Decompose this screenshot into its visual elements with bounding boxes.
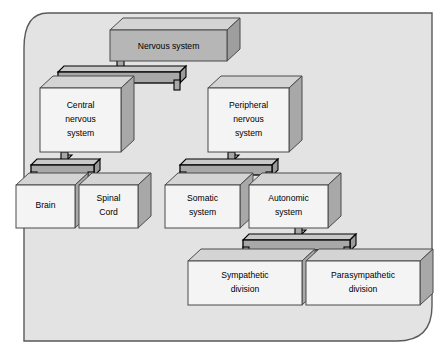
node-autonomic-system[interactable]: Autonomic system [249, 173, 341, 228]
node-sympathetic-division[interactable]: Sympathetic division [188, 249, 315, 305]
node-peripheral-nervous-system[interactable]: Peripheral nervous system [208, 76, 302, 152]
node-label-somatic-2: system [189, 207, 216, 217]
node-label-parasympathetic-2: division [349, 284, 378, 294]
node-label-nervous-system: Nervous system [138, 41, 200, 51]
node-label-sympathetic-2: division [231, 284, 260, 294]
node-label-central-1: Central [67, 100, 95, 110]
node-label-parasympathetic-1: Parasympathetic [331, 270, 396, 280]
diagram-page: Nervous system Central nervous system Pe… [0, 0, 444, 354]
node-label-peripheral-1: Peripheral [229, 100, 268, 110]
node-label-peripheral-3: system [235, 128, 262, 138]
node-label-central-2: nervous [65, 114, 96, 124]
nervous-system-diagram: Nervous system Central nervous system Pe… [0, 0, 444, 354]
node-brain[interactable]: Brain [16, 173, 88, 228]
node-label-somatic-1: Somatic [187, 193, 219, 203]
node-label-peripheral-2: nervous [233, 114, 264, 124]
node-label-central-3: system [67, 128, 94, 138]
node-parasympathetic-division[interactable]: Parasympathetic division [306, 249, 433, 305]
node-label-sympathetic-1: Sympathetic [221, 270, 269, 280]
node-label-autonomic-1: Autonomic [268, 193, 309, 203]
node-label-spinal-2: Cord [99, 207, 118, 217]
node-central-nervous-system[interactable]: Central nervous system [40, 76, 134, 152]
node-spinal-cord[interactable]: Spinal Cord [79, 173, 151, 228]
node-somatic-system[interactable]: Somatic system [165, 173, 253, 228]
node-nervous-system[interactable]: Nervous system [110, 18, 240, 61]
node-label-autonomic-2: system [275, 207, 302, 217]
node-label-brain: Brain [35, 200, 55, 210]
node-label-spinal-1: Spinal [97, 193, 121, 203]
